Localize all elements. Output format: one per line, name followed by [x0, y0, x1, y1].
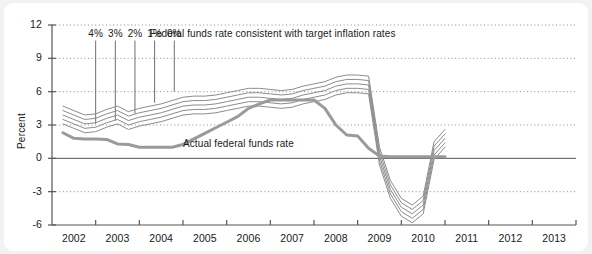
actual-rate-annotation: Actual federal funds rate [183, 138, 294, 149]
chart-card: Percent 129630-3-6 200220032004200520062… [4, 3, 588, 251]
chart-figure [4, 3, 588, 251]
x-tick-label: 2009 [360, 232, 400, 244]
y-tick-label: -3 [18, 185, 42, 197]
x-tick-marks [96, 220, 576, 225]
x-tick-label: 2013 [534, 232, 574, 244]
scenarios-annotation: Federal funds rate consistent with targe… [150, 28, 396, 39]
x-tick-label: 2004 [141, 232, 181, 244]
y-tick-label: 9 [18, 51, 42, 63]
x-tick-label: 2008 [316, 232, 356, 244]
y-tick-label: 6 [18, 85, 42, 97]
x-tick-label: 2012 [491, 232, 531, 244]
y-tick-label: 3 [18, 118, 42, 130]
x-tick-label: 2011 [447, 232, 487, 244]
x-tick-label: 2003 [98, 232, 138, 244]
axis-lines [52, 25, 576, 225]
x-tick-label: 2005 [185, 232, 225, 244]
x-tick-label: 2002 [54, 232, 94, 244]
y-tick-label: -6 [18, 218, 42, 230]
x-tick-label: 2006 [229, 232, 269, 244]
scenario-pointer-lines [96, 41, 175, 124]
x-tick-label: 2007 [272, 232, 312, 244]
y-tick-label: 12 [18, 18, 42, 30]
y-tick-label: 0 [18, 151, 42, 163]
gridlines-group [52, 25, 576, 192]
x-tick-label: 2010 [403, 232, 443, 244]
